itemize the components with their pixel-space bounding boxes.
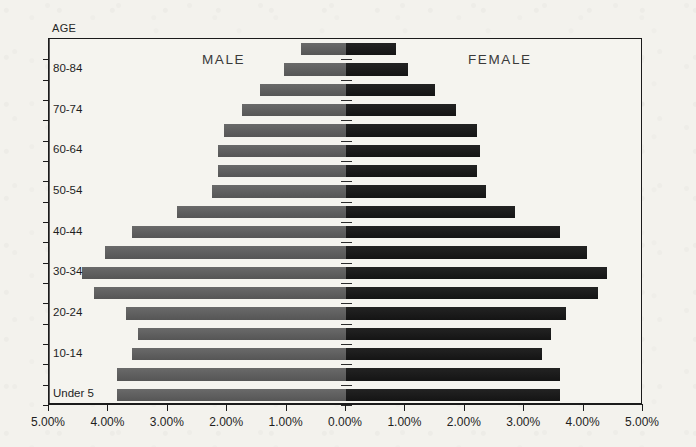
x-axis-tick: [286, 404, 287, 411]
bar-female: [346, 348, 542, 360]
y-axis-label: 80-84: [53, 62, 82, 74]
bar-female: [346, 63, 408, 75]
x-axis-label: 2.00%: [209, 415, 243, 429]
bar-male: [117, 389, 346, 401]
plot-frame: 80-8470-7460-6450-5440-4430-3420-2410-14…: [48, 38, 642, 404]
center-axis-tick: [341, 242, 352, 243]
y-axis-tick: [43, 202, 49, 203]
bar-female: [346, 124, 477, 136]
center-axis-tick: [341, 80, 352, 81]
center-axis-tick: [341, 100, 352, 101]
bar-female: [346, 84, 435, 96]
x-axis-label: 3.00%: [150, 415, 184, 429]
y-axis-tick: [43, 59, 49, 60]
y-axis-label: 20-24: [53, 306, 82, 318]
x-axis-label: 1.00%: [269, 415, 303, 429]
y-axis-label: 10-14: [53, 347, 82, 359]
x-axis-tick: [404, 404, 405, 411]
center-axis-tick: [341, 303, 352, 304]
x-axis-tick: [48, 404, 49, 411]
y-axis-label: Under 5: [53, 387, 94, 399]
bar-row: [49, 263, 641, 283]
center-axis-tick: [341, 161, 352, 162]
bar-female: [346, 104, 456, 116]
y-axis-tick: [43, 181, 49, 182]
bar-male: [132, 226, 346, 238]
x-axis-tick: [226, 404, 227, 411]
center-axis-tick: [341, 324, 352, 325]
population-pyramid-chart: AGE 80-8470-7460-6450-5440-4430-3420-241…: [0, 0, 696, 447]
center-axis-tick: [341, 181, 352, 182]
bar-row: [49, 324, 641, 344]
bar-row: [49, 242, 641, 262]
y-axis-tick: [43, 120, 49, 121]
x-axis-label: 1.00%: [387, 415, 421, 429]
bar-male: [218, 165, 346, 177]
y-axis-label: 40-44: [53, 225, 82, 237]
center-axis-tick: [341, 120, 352, 121]
bar-female: [346, 145, 480, 157]
x-axis-tick: [583, 404, 584, 411]
series-label-female: FEMALE: [468, 52, 532, 67]
bar-row: [49, 202, 641, 222]
bar-male: [218, 145, 346, 157]
bar-male: [260, 84, 346, 96]
x-axis-label: 2.00%: [447, 415, 481, 429]
bar-row: [49, 364, 641, 384]
age-axis-caption: AGE: [52, 22, 76, 34]
bar-male: [117, 368, 346, 380]
center-axis-tick: [341, 385, 352, 386]
y-axis-tick: [43, 100, 49, 101]
y-axis-tick: [43, 303, 49, 304]
bar-female: [346, 43, 396, 55]
bar-male: [224, 124, 346, 136]
bar-female: [346, 389, 560, 401]
bar-row: [49, 344, 641, 364]
x-axis-tick: [107, 404, 108, 411]
bar-row: [49, 100, 641, 120]
y-axis-tick: [43, 385, 49, 386]
bar-female: [346, 328, 551, 340]
bar-row: [49, 222, 641, 242]
bar-male: [82, 267, 346, 279]
x-axis-label: 5.00%: [31, 415, 65, 429]
x-axis-tick: [345, 404, 346, 411]
bar-row: [49, 59, 641, 79]
bar-row: [49, 283, 641, 303]
bar-row: [49, 181, 641, 201]
bar-female: [346, 267, 607, 279]
bar-row: [49, 303, 641, 323]
x-axis-tick: [464, 404, 465, 411]
bar-female: [346, 226, 560, 238]
series-label-male: MALE: [202, 52, 245, 67]
x-axis-label: 4.00%: [566, 415, 600, 429]
bar-row: [49, 385, 641, 405]
center-axis-tick: [341, 222, 352, 223]
bar-male: [105, 246, 346, 258]
bar-female: [346, 246, 587, 258]
y-axis-tick: [43, 263, 49, 264]
bar-row: [49, 120, 641, 140]
bar-male: [177, 206, 346, 218]
center-axis-tick: [341, 344, 352, 345]
bar-female: [346, 206, 515, 218]
x-axis-label: 4.00%: [90, 415, 124, 429]
bar-male: [138, 328, 346, 340]
bar-row: [49, 39, 641, 59]
x-axis-label: 5.00%: [625, 415, 659, 429]
bar-male: [126, 307, 346, 319]
bar-female: [346, 368, 560, 380]
plot-area: 80-8470-7460-6450-5440-4430-3420-2410-14…: [49, 39, 641, 403]
x-axis-tick: [167, 404, 168, 411]
center-axis-tick: [341, 283, 352, 284]
y-axis-label: 30-34: [53, 265, 82, 277]
y-axis-tick: [43, 283, 49, 284]
y-axis-label: 70-74: [53, 103, 82, 115]
bar-male: [284, 63, 346, 75]
bar-row: [49, 161, 641, 181]
bar-male: [132, 348, 346, 360]
bar-female: [346, 287, 598, 299]
x-axis-tick: [523, 404, 524, 411]
x-axis-label: 3.00%: [506, 415, 540, 429]
bar-female: [346, 307, 566, 319]
